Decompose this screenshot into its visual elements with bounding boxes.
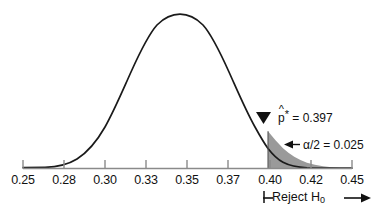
x-tick-label-7: 0.42	[299, 173, 323, 187]
hat-accent-icon: ^	[279, 104, 284, 115]
alpha-half-annotation: α/2 = 0.025	[303, 138, 364, 152]
x-tick-label-4: 0.35	[175, 173, 199, 187]
null-hypothesis-subscript: 0	[320, 195, 325, 205]
alpha-half-text: /2 = 0.025	[310, 138, 364, 152]
reject-text: Reject H	[272, 190, 320, 204]
x-tick-label-5: 0.37	[216, 173, 240, 187]
x-tick-label-2: 0.30	[93, 173, 117, 187]
star-superscript: *	[285, 108, 289, 120]
x-tick-label-3: 0.33	[134, 173, 158, 187]
critical-value-text: = 0.397	[292, 111, 332, 125]
alpha-callout-arrow	[284, 141, 300, 149]
critical-value-marker-triangle	[256, 112, 271, 124]
alpha-symbol: α	[303, 138, 310, 152]
x-tick-label-1: 0.28	[52, 173, 76, 187]
reject-region-bracket-dash	[263, 196, 275, 200]
statistics-figure: 0.25 0.28 0.30 0.33 0.35 0.37 0.40 0.42 …	[0, 0, 377, 217]
reject-region-arrow-icon	[344, 191, 372, 205]
x-tick-label-0: 0.25	[11, 173, 35, 187]
x-tick-label-8: 0.45	[340, 173, 364, 187]
reject-region-label: Reject H0	[272, 190, 325, 205]
x-tick-label-6: 0.40	[258, 173, 282, 187]
critical-value-annotation: ^ p * = 0.397	[278, 108, 333, 125]
p-hat-symbol: ^ p	[278, 111, 285, 125]
